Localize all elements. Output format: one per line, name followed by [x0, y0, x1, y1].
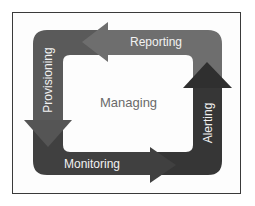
alerting-arrow-icon	[183, 62, 232, 88]
center-label: Managing	[100, 96, 157, 109]
stage-label-alerting: Alerting	[202, 103, 214, 144]
provisioning-arrow-icon	[24, 120, 72, 147]
stage-label-monitoring: Monitoring	[64, 158, 120, 170]
stage-label-reporting: Reporting	[130, 36, 182, 48]
stage-label-provisioning: Provisioning	[42, 47, 54, 112]
reporting-arrow-icon	[82, 22, 108, 62]
